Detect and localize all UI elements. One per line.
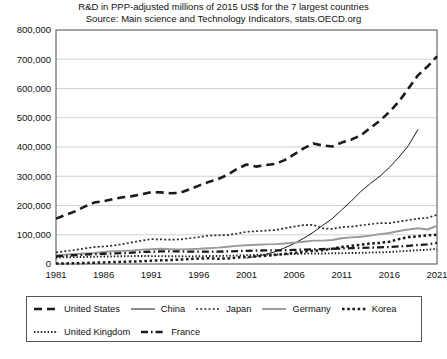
y-axis-tick-label: 300,000 [17, 171, 51, 182]
y-axis-tick-label: 600,000 [17, 83, 51, 94]
legend-item-label: China [161, 304, 185, 314]
chart-screenshot: R&D in PPP-adjusted millions of 2015 US$… [0, 0, 447, 359]
legend-key-gray-solid [261, 304, 287, 314]
x-axis-tick-label: 1981 [45, 269, 66, 280]
y-axis-tick-label: 400,000 [17, 141, 51, 152]
chart-subtitle: Source: Main science and Technology Indi… [0, 13, 447, 25]
x-axis-tick-label: 2021 [426, 269, 447, 280]
series-line-korea [56, 235, 437, 264]
x-axis-tick-label: 1986 [93, 269, 114, 280]
legend-key-square-dots [341, 304, 367, 314]
y-axis-tick-label: 700,000 [17, 54, 51, 65]
chart-plot-area: 800,000700,000600,000500,000400,000300,0… [0, 24, 447, 290]
legend-item-france[interactable]: France [140, 327, 200, 337]
line-chart-svg: 800,000700,000600,000500,000400,000300,0… [0, 24, 447, 290]
legend-item-label: Japan [226, 304, 251, 314]
legend-item-label: United States [64, 304, 120, 314]
legend-row-primary: United StatesChinaJapanGermanyKorea [27, 297, 421, 320]
legend-item-japan[interactable]: Japan [195, 304, 251, 314]
y-axis-tick-label: 0 [46, 258, 51, 269]
legend-item-label: United Kingdom [64, 327, 130, 337]
chart-title: R&D in PPP-adjusted millions of 2015 US$… [0, 1, 447, 13]
legend-row-secondary: United KingdomFrance [27, 320, 421, 343]
legend-item-united-states[interactable]: United States [33, 304, 120, 314]
legend-item-korea[interactable]: Korea [341, 304, 397, 314]
legend-item-label: Korea [372, 304, 397, 314]
chart-legend: United StatesChinaJapanGermanyKorea Unit… [26, 296, 422, 342]
chart-title-block: R&D in PPP-adjusted millions of 2015 US$… [0, 1, 447, 24]
series-line-united-states [56, 56, 437, 218]
y-axis-tick-label: 500,000 [17, 112, 51, 123]
y-axis-tick-label: 100,000 [17, 229, 51, 240]
legend-item-china[interactable]: China [130, 304, 185, 314]
x-axis-tick-label: 1991 [141, 269, 162, 280]
y-axis-tick-label: 200,000 [17, 200, 51, 211]
legend-key-thin-solid [130, 304, 156, 314]
legend-item-label: France [171, 327, 200, 337]
x-axis-tick-label: 2006 [284, 269, 305, 280]
legend-item-label: Germany [292, 304, 330, 314]
x-axis-tick-label: 2011 [332, 269, 352, 280]
y-axis-tick-label: 800,000 [17, 24, 51, 35]
legend-key-fine-dots [33, 327, 59, 337]
legend-key-thick-dashed [33, 304, 59, 314]
series-line-china [247, 129, 418, 258]
legend-key-dash-dot [140, 327, 166, 337]
legend-key-dotted [195, 304, 221, 314]
legend-item-germany[interactable]: Germany [261, 304, 330, 314]
x-axis-tick-label: 1996 [188, 269, 209, 280]
x-axis-tick-label: 2001 [236, 269, 257, 280]
legend-item-united-kingdom[interactable]: United Kingdom [33, 327, 130, 337]
x-axis-tick-label: 2016 [379, 269, 400, 280]
